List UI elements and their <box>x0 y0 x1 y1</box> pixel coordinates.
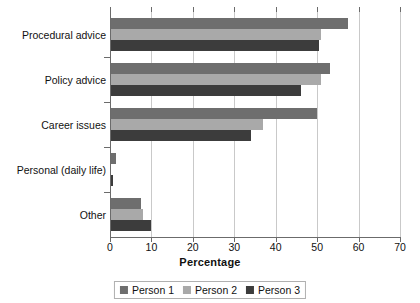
y-axis-line <box>110 12 111 238</box>
x-tick-label-10: 10 <box>131 241 171 253</box>
x-tick-top-70 <box>400 7 401 12</box>
bar <box>110 119 263 130</box>
bar <box>110 29 321 40</box>
category-label: Career issues <box>41 119 106 131</box>
bar-group <box>110 57 400 102</box>
gridline-70 <box>400 12 401 237</box>
x-axis-title: Percentage <box>0 256 420 268</box>
x-axis-line <box>110 237 401 238</box>
legend-swatch-icon <box>183 286 191 294</box>
bar-group <box>110 192 400 237</box>
x-tick-label-40: 40 <box>256 241 296 253</box>
x-tick-label-50: 50 <box>297 241 337 253</box>
bar-group <box>110 102 400 147</box>
bar-group <box>110 147 400 192</box>
plot-area <box>110 12 400 237</box>
bar-chart: Procedural advicePolicy adviceCareer iss… <box>0 0 420 303</box>
x-tick-label-0: 0 <box>90 241 130 253</box>
bar <box>110 40 319 51</box>
bar <box>110 198 141 209</box>
x-tick-label-70: 70 <box>380 241 420 253</box>
bar <box>110 63 330 74</box>
bar <box>110 85 301 96</box>
legend-label: Person 3 <box>258 284 300 296</box>
legend-label: Person 2 <box>195 284 237 296</box>
bar <box>110 220 151 231</box>
category-label: Personal (daily life) <box>17 164 106 176</box>
bar <box>110 130 251 141</box>
category-label: Policy advice <box>45 74 106 86</box>
bar-group <box>110 12 400 57</box>
bar <box>110 108 317 119</box>
legend-item[interactable]: Person 2 <box>183 284 237 296</box>
legend-item[interactable]: Person 1 <box>120 284 174 296</box>
legend-swatch-icon <box>120 286 128 294</box>
x-tick-label-20: 20 <box>173 241 213 253</box>
bar <box>110 209 143 220</box>
legend-item[interactable]: Person 3 <box>246 284 300 296</box>
legend-label: Person 1 <box>132 284 174 296</box>
category-label: Procedural advice <box>22 29 106 41</box>
bar <box>110 18 348 29</box>
chart-legend: Person 1Person 2Person 3 <box>114 281 306 299</box>
bar <box>110 74 321 85</box>
x-tick-label-30: 30 <box>214 241 254 253</box>
legend-swatch-icon <box>246 286 254 294</box>
category-label: Other <box>80 209 106 221</box>
x-tick-label-60: 60 <box>339 241 379 253</box>
